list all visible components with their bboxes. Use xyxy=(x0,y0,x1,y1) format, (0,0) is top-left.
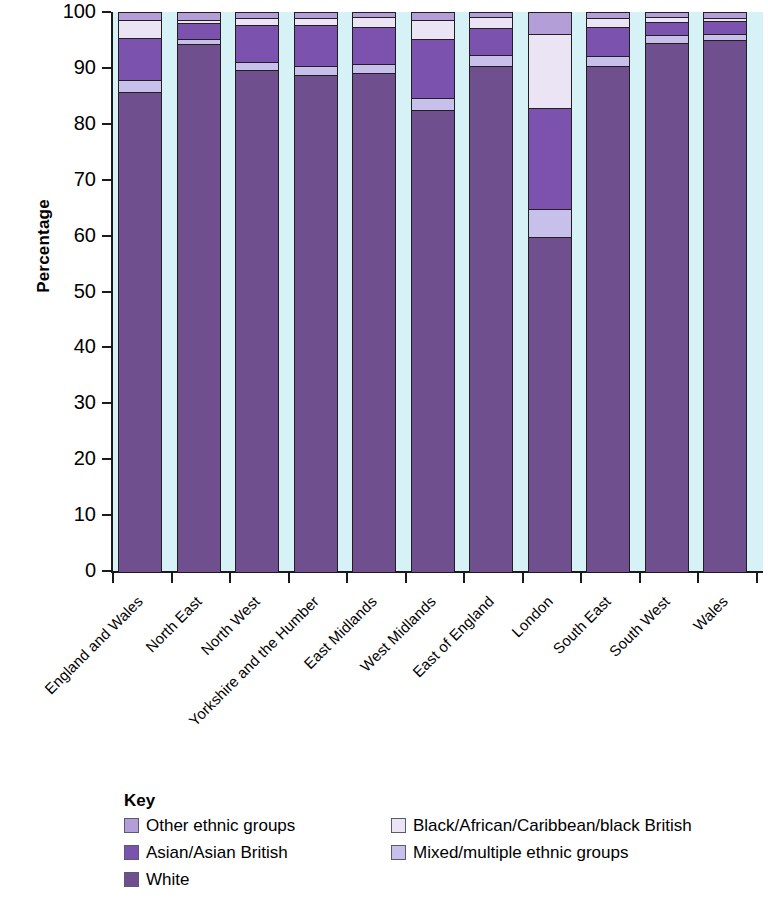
x-tick-mark xyxy=(697,573,699,583)
legend-swatch-icon xyxy=(124,872,139,887)
legend-swatch-icon xyxy=(391,818,406,833)
bar-segment xyxy=(236,19,278,27)
bar-segment xyxy=(295,19,337,26)
y-tick-mark xyxy=(102,67,111,69)
legend-label: Mixed/multiple ethnic groups xyxy=(413,844,628,861)
y-tick-mark xyxy=(102,346,111,348)
y-tick-label: 90 xyxy=(50,57,96,77)
y-tick-mark xyxy=(102,11,111,13)
y-tick-mark xyxy=(102,291,111,293)
bar-segment xyxy=(295,67,337,75)
stacked-bar-chart: Percentage 0102030405060708090100 Englan… xyxy=(0,0,768,908)
bar-segment xyxy=(295,76,337,572)
legend-item[interactable]: Mixed/multiple ethnic groups xyxy=(391,844,628,861)
legend-label: White xyxy=(146,871,189,888)
y-tick-label: 10 xyxy=(50,504,96,524)
bar-segment xyxy=(587,67,629,572)
legend-item[interactable]: Other ethnic groups xyxy=(124,817,295,834)
bar-segment xyxy=(529,109,571,210)
bar-segment xyxy=(646,23,688,36)
bar-segment xyxy=(119,93,161,572)
bar-segment xyxy=(178,13,220,21)
y-tick-mark xyxy=(102,570,111,572)
bar-segment xyxy=(587,19,629,28)
y-tick-label: 30 xyxy=(50,392,96,412)
bar xyxy=(469,12,513,571)
bar xyxy=(703,12,747,571)
bar-segment xyxy=(704,41,746,572)
bar-segment xyxy=(353,18,395,28)
bar-segment xyxy=(529,210,571,238)
y-tick-label: 100 xyxy=(50,1,96,21)
bar-segment xyxy=(646,44,688,572)
x-tick-mark xyxy=(346,573,348,583)
bar xyxy=(528,12,572,571)
bar xyxy=(411,12,455,571)
plot-area xyxy=(113,12,763,571)
y-tick-mark xyxy=(102,402,111,404)
bar xyxy=(645,12,689,571)
bar xyxy=(177,12,221,571)
y-tick-mark xyxy=(102,458,111,460)
bar-segment xyxy=(470,29,512,56)
bar-segment xyxy=(646,36,688,44)
x-tick-mark xyxy=(756,573,758,583)
bar-segment xyxy=(412,21,454,39)
y-tick-mark xyxy=(102,235,111,237)
legend-label: Black/African/Caribbean/black British xyxy=(413,817,692,834)
y-tick-mark xyxy=(102,123,111,125)
y-tick-label: 40 xyxy=(50,336,96,356)
bar-segment xyxy=(353,74,395,572)
y-tick-mark xyxy=(102,179,111,181)
bar-segment xyxy=(353,28,395,65)
x-tick-mark xyxy=(580,573,582,583)
bar-segment xyxy=(412,99,454,111)
bar-segment xyxy=(412,13,454,21)
bar-segment xyxy=(119,13,161,21)
bar xyxy=(118,12,162,571)
y-tick-label: 0 xyxy=(50,560,96,580)
bar-segment xyxy=(587,28,629,57)
x-tick-mark xyxy=(112,573,114,583)
y-tick-label: 70 xyxy=(50,169,96,189)
bar-segment xyxy=(529,13,571,35)
x-tick-mark xyxy=(405,573,407,583)
legend-swatch-icon xyxy=(124,818,139,833)
bar xyxy=(235,12,279,571)
x-tick-mark xyxy=(229,573,231,583)
legend-label: Other ethnic groups xyxy=(146,817,295,834)
y-tick-label: 80 xyxy=(50,113,96,133)
bar-segment xyxy=(236,26,278,63)
legend-items: Other ethnic groupsBlack/African/Caribbe… xyxy=(124,817,764,895)
legend-title: Key xyxy=(124,792,764,811)
bar-segment xyxy=(119,39,161,81)
y-tick-mark xyxy=(102,514,111,516)
x-tick-mark xyxy=(522,573,524,583)
bar-segment xyxy=(470,18,512,29)
bar xyxy=(586,12,630,571)
bar-segment xyxy=(236,63,278,71)
bar xyxy=(294,12,338,571)
legend-label: Asian/Asian British xyxy=(146,844,288,861)
y-axis-title: Percentage xyxy=(34,166,54,326)
bar-segment xyxy=(412,111,454,572)
y-tick-label: 20 xyxy=(50,448,96,468)
bar xyxy=(352,12,396,571)
bar-segment xyxy=(587,57,629,67)
bar-segment xyxy=(178,45,220,572)
bar-segment xyxy=(529,238,571,572)
x-tick-mark xyxy=(288,573,290,583)
bar-segment xyxy=(412,40,454,99)
legend-item[interactable]: Asian/Asian British xyxy=(124,844,288,861)
x-tick-mark xyxy=(639,573,641,583)
legend-item[interactable]: White xyxy=(124,871,189,888)
legend: Key Other ethnic groupsBlack/African/Car… xyxy=(124,792,764,895)
bar-segment xyxy=(529,35,571,109)
y-tick-label: 50 xyxy=(50,281,96,301)
legend-item[interactable]: Black/African/Caribbean/black British xyxy=(391,817,692,834)
bar-segment xyxy=(178,24,220,40)
bar-segment xyxy=(119,21,161,39)
bar-segment xyxy=(236,71,278,572)
bar-segment xyxy=(119,81,161,93)
x-tick-mark xyxy=(463,573,465,583)
